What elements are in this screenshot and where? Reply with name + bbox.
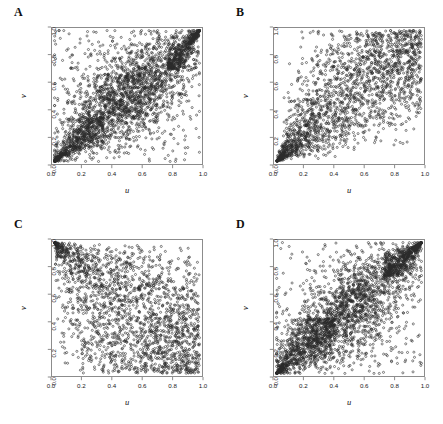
panel-label-a: A: [14, 6, 23, 18]
plot-area-a: [51, 27, 203, 165]
x-tick-label: 1.0: [199, 383, 208, 389]
y-tick-label: 0.8: [273, 55, 279, 64]
panel-c: C0.00.20.40.60.81.00.00.20.40.60.81.0uv: [0, 212, 221, 424]
y-tick-label: 0.0: [51, 165, 57, 174]
y-axis-title: v: [241, 94, 250, 98]
y-tick-label: 0.8: [273, 267, 279, 276]
copula-scatter-figure: A0.00.20.40.60.81.00.00.20.40.60.81.0uvB…: [0, 0, 443, 424]
scatter-points-b: [273, 27, 425, 165]
x-tick-label: 0.2: [299, 383, 308, 389]
scatter-points-d: [273, 239, 425, 377]
x-tick-label: 0.6: [360, 383, 369, 389]
panel-b: B0.00.20.40.60.81.00.00.20.40.60.81.0uv: [222, 0, 443, 212]
x-tick-label: 0.6: [360, 171, 369, 177]
x-tick-label: 0.8: [168, 383, 177, 389]
y-tick-label: 1.0: [273, 27, 279, 36]
x-axis-title: u: [125, 398, 129, 407]
y-tick-label: 0.8: [51, 267, 57, 276]
x-tick-label: 1.0: [421, 171, 430, 177]
x-tick-label: 0.8: [168, 171, 177, 177]
x-tick-label: 0.8: [390, 383, 399, 389]
plot-area-b: [273, 27, 425, 165]
y-tick-label: 0.6: [51, 82, 57, 91]
panel-label-b: B: [236, 6, 244, 18]
y-tick-label: 0.0: [51, 377, 57, 386]
y-tick-label: 0.0: [273, 165, 279, 174]
y-tick-label: 0.2: [273, 349, 279, 358]
x-axis-title: u: [125, 186, 129, 195]
y-tick-label: 0.6: [51, 294, 57, 303]
y-axis-title: v: [19, 94, 28, 98]
y-tick-label: 1.0: [51, 239, 57, 248]
y-tick-label: 0.4: [273, 110, 279, 119]
x-tick-label: 0.6: [138, 383, 147, 389]
y-tick-label: 0.4: [51, 110, 57, 119]
scatter-points-c: [51, 239, 203, 377]
y-tick-label: 1.0: [51, 27, 57, 36]
plot-area-c: [51, 239, 203, 377]
y-tick-label: 0.0: [273, 377, 279, 386]
y-tick-label: 0.6: [273, 294, 279, 303]
x-axis-title: u: [347, 186, 351, 195]
y-tick-label: 0.2: [51, 349, 57, 358]
y-tick-label: 0.8: [51, 55, 57, 64]
x-tick-label: 0.2: [77, 383, 86, 389]
x-axis-title: u: [347, 398, 351, 407]
panel-a: A0.00.20.40.60.81.00.00.20.40.60.81.0uv: [0, 0, 221, 212]
y-tick-label: 0.4: [273, 322, 279, 331]
panel-label-c: C: [14, 218, 23, 230]
x-tick-label: 0.8: [390, 171, 399, 177]
x-tick-label: 0.4: [107, 383, 116, 389]
x-tick-label: 0.4: [107, 171, 116, 177]
x-tick-label: 0.2: [299, 171, 308, 177]
x-tick-label: 0.2: [77, 171, 86, 177]
x-tick-label: 1.0: [421, 383, 430, 389]
panel-d: D0.00.20.40.60.81.00.00.20.40.60.81.0uv: [222, 212, 443, 424]
x-tick-label: 1.0: [199, 171, 208, 177]
y-tick-label: 0.2: [273, 137, 279, 146]
y-tick-label: 1.0: [273, 239, 279, 248]
y-tick-label: 0.6: [273, 82, 279, 91]
y-tick-label: 0.2: [51, 137, 57, 146]
scatter-points-a: [51, 27, 203, 165]
y-axis-title: v: [241, 306, 250, 310]
x-tick-label: 0.4: [329, 171, 338, 177]
y-tick-label: 0.4: [51, 322, 57, 331]
x-tick-label: 0.4: [329, 383, 338, 389]
y-axis-title: v: [19, 306, 28, 310]
plot-area-d: [273, 239, 425, 377]
panel-label-d: D: [236, 218, 245, 230]
x-tick-label: 0.6: [138, 171, 147, 177]
